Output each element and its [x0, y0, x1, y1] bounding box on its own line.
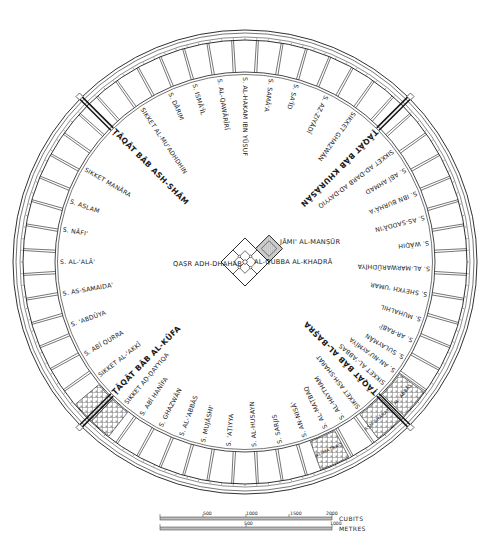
street-label: S. SA'ĪD — [286, 83, 300, 110]
street-label: S. AL-'ABBĀS — [178, 394, 199, 436]
cubits-tick-1000: 1000 — [246, 511, 258, 516]
street-label: S. AL-'ALĀ' — [60, 258, 95, 265]
street-label: S. AL-HUSAYN — [248, 401, 257, 447]
street-label: S. AN-NISĀ' — [289, 401, 308, 439]
gate-tower-icon — [407, 93, 414, 100]
metres-label: METRES — [339, 525, 366, 532]
street-label: S. WĀḌIH — [398, 239, 430, 250]
mosque-label: JĀMI' AL-MANṢŪR — [279, 238, 340, 246]
street-label: S. AS-SAMAIDA' — [62, 281, 114, 297]
gate-passage — [81, 95, 114, 128]
scale-bars: 500 1000 1500 2000 CUBITS 500 1000 METRE… — [160, 511, 366, 532]
gate-passage — [78, 98, 111, 131]
street-label: S. SHEYKH 'UMAR — [369, 281, 428, 298]
central-complex: QAṢR ADH-DHAHAB JĀMI' AL-MANṢŪR AL-QUBBA… — [173, 225, 340, 287]
street-label: S. ASLAM — [69, 198, 100, 215]
street-label: S. ABĪ QURRA — [83, 328, 126, 357]
gate-passage — [379, 98, 412, 131]
cubits-label: CUBITS — [339, 515, 363, 522]
street-label: SIKKET MANĀRA — [83, 166, 133, 199]
street-label: S. 'ABDŪYA — [70, 308, 108, 327]
street-label: S. MUJĀSHI' — [199, 404, 215, 443]
gate-tower-icon — [76, 93, 83, 100]
street-label: S. AL-QAWĀRĪRĪ — [217, 78, 231, 131]
round-city-plan: S. ISMĀ'ĪLS. AL-QAWĀRĪRĪS. AL-HAKAM IBN … — [0, 0, 493, 545]
metres-tick-500: 500 — [244, 521, 253, 526]
street-label: S. GHAZWĀN — [157, 387, 183, 428]
street-label: S. MUHALHIL — [379, 303, 422, 323]
gate-passage — [377, 95, 410, 128]
cubits-tick-500: 500 — [203, 511, 212, 516]
street-label: S. AZ-ZIYĀDĪ — [305, 95, 330, 135]
street-label: S. SAMĀ'A — [263, 78, 275, 113]
cubits-tick-1500: 1500 — [290, 511, 302, 516]
street-label: S. IBN BURHĀ'A — [368, 190, 419, 216]
street-label: S. AL-MARWARŪDHĪYA — [357, 263, 430, 273]
street-label: S. AR-RABĪ' — [378, 322, 414, 344]
street-label: S. DĀRIM — [167, 91, 186, 121]
street-label: S. NĀFI' — [62, 226, 88, 237]
dome-label: AL-QUBBA AL-KHAḌRĀ — [254, 258, 333, 266]
street-label: S. 'AṬIYYA — [225, 413, 236, 447]
metres-scale-bar — [160, 527, 332, 530]
street-label: S. AL-HAKAM IBN YŪSUF — [242, 77, 249, 156]
street-label: S. ISMĀ'ĪL — [191, 83, 207, 116]
gate-tower-icon — [407, 424, 414, 431]
palace-label: QAṢR ADH-DHAHAB — [173, 260, 242, 268]
cubits-scale-bar — [160, 517, 332, 520]
cubits-tick-2000: 2000 — [326, 511, 338, 516]
street-label: S. SARJIS — [270, 414, 284, 445]
street-label: S. AS-SADDĀ'IN — [374, 215, 425, 234]
gate-tower-icon — [76, 424, 83, 431]
